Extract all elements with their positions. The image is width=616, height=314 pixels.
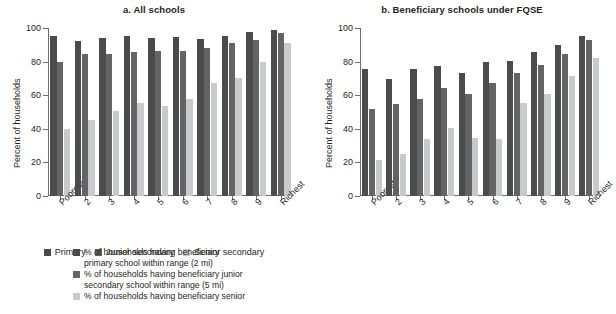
x-category-label: 4: [131, 196, 142, 207]
y-tick: [355, 162, 360, 163]
bar-group: [483, 28, 503, 196]
bar: [369, 109, 375, 196]
bar-group: [173, 28, 193, 196]
y-tick: [355, 28, 360, 29]
bar: [362, 69, 368, 196]
bar: [496, 139, 502, 196]
x-category-label: 3: [106, 196, 117, 207]
x-category-label: 5: [465, 196, 476, 207]
bar: [531, 52, 537, 196]
bar-group: [50, 28, 70, 196]
bar: [88, 120, 94, 196]
x-category-label: 3: [417, 196, 428, 207]
x-category-label: 2: [393, 196, 404, 207]
bar-group: [362, 28, 382, 196]
x-category-label: 5: [155, 196, 166, 207]
y-tick: [43, 28, 48, 29]
legend-label-line: secondary school within range (5 mi): [84, 280, 243, 291]
bar: [131, 52, 137, 196]
bar: [106, 54, 112, 196]
x-category-label: 6: [180, 196, 191, 207]
x-category-label: 7: [514, 196, 525, 207]
legend-label-line: % of households having beneficiary senio…: [84, 291, 245, 302]
bar-group: [531, 28, 551, 196]
legend-item: % of households having beneficiary junio…: [73, 269, 308, 290]
bar-group: [555, 28, 575, 196]
bar: [235, 78, 241, 196]
legend-swatch-icon: [73, 271, 80, 278]
bar-group: [434, 28, 454, 196]
bar: [472, 138, 478, 196]
bar: [483, 62, 489, 196]
bar-group: [246, 28, 266, 196]
y-tick: [43, 162, 48, 163]
bar: [162, 106, 168, 196]
panel-a-plot-area: 020406080100Poorest23456789Richest: [48, 28, 293, 196]
panel-a-y-axis: [48, 28, 49, 196]
panel-a-y-axis-title: Percent of households: [12, 78, 22, 168]
bar: [57, 62, 63, 196]
bar: [82, 54, 88, 196]
x-category-label: 4: [441, 196, 452, 207]
legend-label-line: primary school within range (2 mi): [84, 258, 219, 269]
bar: [400, 154, 406, 196]
bar-group: [148, 28, 168, 196]
legend-label-line: % of households having beneficiary junio…: [84, 269, 243, 280]
bar: [137, 103, 143, 196]
bar: [593, 58, 599, 196]
x-category-label: 8: [229, 196, 240, 207]
bar-group: [410, 28, 430, 196]
bar-group: [579, 28, 599, 196]
bar: [278, 33, 284, 196]
bar: [507, 61, 513, 196]
legend-label: % of households having beneficiary senio…: [84, 291, 245, 302]
panel-b-title: b. Beneficiary schools under FQSE: [308, 4, 616, 15]
bar: [555, 45, 561, 196]
bar: [393, 104, 399, 196]
bar-group: [75, 28, 95, 196]
bar-group: [271, 28, 291, 196]
bar: [148, 38, 154, 196]
bar: [173, 37, 179, 196]
y-tick-label: 60: [343, 90, 353, 100]
y-tick: [43, 62, 48, 63]
bar: [113, 111, 119, 196]
y-tick: [355, 62, 360, 63]
x-category-label: 9: [253, 196, 264, 207]
bar-group: [124, 28, 144, 196]
x-category-label: 8: [538, 196, 549, 207]
bar: [520, 103, 526, 196]
legend-label: % of households having beneficiaryprimar…: [84, 247, 219, 268]
y-tick: [43, 196, 48, 197]
y-tick: [355, 129, 360, 130]
bar: [253, 40, 259, 196]
bar: [579, 36, 585, 196]
legend-swatch-icon: [44, 249, 51, 256]
y-tick: [355, 95, 360, 96]
panel-a-title: a. All schools: [0, 4, 308, 15]
y-tick-label: 100: [338, 23, 353, 33]
legend-beneficiary-schools: % of households having beneficiaryprimar…: [73, 247, 308, 303]
bar: [448, 128, 454, 196]
bar: [424, 139, 430, 196]
bar: [75, 41, 81, 196]
bar: [222, 36, 228, 196]
y-tick-label: 20: [343, 157, 353, 167]
y-tick: [355, 196, 360, 197]
bar: [246, 32, 252, 196]
bar-group: [197, 28, 217, 196]
bar: [434, 66, 440, 196]
bar: [50, 36, 56, 196]
bar: [186, 99, 192, 196]
bar: [562, 54, 568, 196]
bar-group: [507, 28, 527, 196]
legend-item: % of households having beneficiary senio…: [73, 291, 308, 302]
bar: [410, 69, 416, 196]
bar: [538, 65, 544, 196]
y-tick-label: 40: [31, 124, 41, 134]
y-tick-label: 0: [348, 191, 353, 201]
legend-item: % of households having beneficiaryprimar…: [73, 247, 308, 268]
legend-label: % of households having beneficiary junio…: [84, 269, 243, 290]
bar: [586, 40, 592, 196]
x-category-label: 2: [82, 196, 93, 207]
